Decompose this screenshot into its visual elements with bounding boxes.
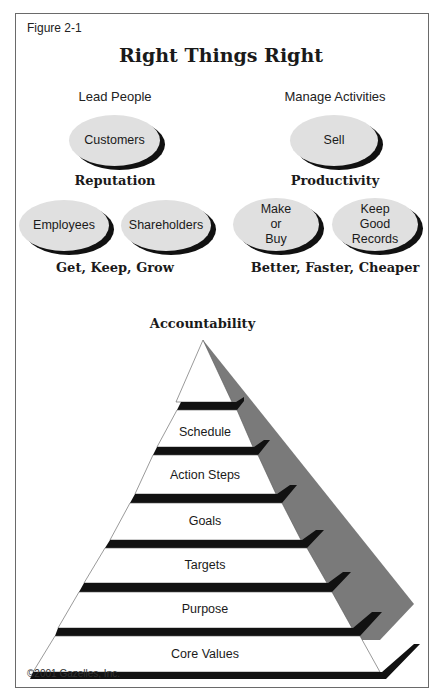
pyramid-level-action-steps: Action Steps xyxy=(145,468,265,482)
pyramid-level-goals: Goals xyxy=(155,514,255,528)
pyramid-level-schedule: Schedule xyxy=(155,425,255,439)
copyright-notice: ©2001 Gazelles, Inc. xyxy=(27,668,120,679)
pyramid-level-targets: Targets xyxy=(155,558,255,572)
pyramid-level-purpose: Purpose xyxy=(155,602,255,616)
pyramid-level-core-values: Core Values xyxy=(145,647,265,661)
accountability-pyramid xyxy=(0,0,442,698)
